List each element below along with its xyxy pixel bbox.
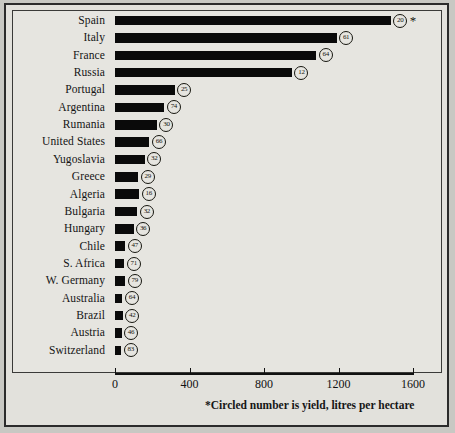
bar <box>115 311 123 321</box>
x-axis-tick <box>264 368 265 373</box>
yield-circle-badge: 61 <box>339 31 353 45</box>
yield-circle-badge: 83 <box>124 343 138 357</box>
category-label: Austria <box>0 324 105 341</box>
asterisk-marker: * <box>410 13 417 29</box>
bar <box>115 137 149 147</box>
yield-circle-badge: 66 <box>152 135 166 149</box>
bar <box>115 51 316 61</box>
bar-row: W. Germany79 <box>0 272 455 289</box>
bar-row: Bulgaria32 <box>0 203 455 220</box>
bar-row: Yugoslavia32 <box>0 151 455 168</box>
category-label: Hungary <box>0 220 105 237</box>
category-label: Greece <box>0 168 105 185</box>
bar <box>115 33 337 43</box>
x-axis-tick-label: 1200 <box>318 377 360 392</box>
yield-circle-badge: 32 <box>140 205 154 219</box>
category-label: Algeria <box>0 186 105 203</box>
plot-area: Spain20Italy61France64Russia12Portugal25… <box>0 0 455 433</box>
bar <box>115 103 164 113</box>
yield-circle-badge: 64 <box>319 48 333 62</box>
category-label: France <box>0 47 105 64</box>
bar <box>115 241 125 251</box>
bar <box>115 68 292 78</box>
x-axis-tick <box>115 368 116 373</box>
bar <box>115 276 125 286</box>
chart-footnote: *Circled number is yield, litres per hec… <box>205 399 414 411</box>
yield-circle-badge: 30 <box>159 118 173 132</box>
category-label: W. Germany <box>0 272 105 289</box>
category-label: Rumania <box>0 116 105 133</box>
category-label: S. Africa <box>0 255 105 272</box>
x-axis-tick <box>413 368 414 373</box>
bar-row: Switzerland83 <box>0 342 455 359</box>
category-label: Argentina <box>0 99 105 116</box>
x-axis-tick <box>339 368 340 373</box>
bar-row: Russia12 <box>0 64 455 81</box>
bar <box>115 172 138 182</box>
yield-circle-badge: 64 <box>125 291 139 305</box>
x-axis-tick-label: 0 <box>94 377 136 392</box>
bar <box>115 85 175 95</box>
category-label: Spain <box>0 12 105 29</box>
category-label: Switzerland <box>0 342 105 359</box>
x-axis-tick <box>190 368 191 373</box>
chart-figure: Spain20Italy61France64Russia12Portugal25… <box>0 0 455 433</box>
yield-circle-badge: 32 <box>147 152 161 166</box>
bar <box>115 16 391 26</box>
yield-circle-badge: 71 <box>127 257 141 271</box>
category-label: Yugoslavia <box>0 151 105 168</box>
bar <box>115 155 145 165</box>
yield-circle-badge: 47 <box>128 239 142 253</box>
category-label: Portugal <box>0 81 105 98</box>
bar-row: Australia64 <box>0 290 455 307</box>
bar-row: France64 <box>0 47 455 64</box>
yield-circle-badge: 42 <box>125 309 139 323</box>
bar <box>115 224 134 234</box>
yield-circle-badge: 79 <box>128 274 142 288</box>
bar-row: Spain20 <box>0 12 455 29</box>
bar-row: Portugal25 <box>0 81 455 98</box>
category-label: Russia <box>0 64 105 81</box>
bar-row: Italy61 <box>0 29 455 46</box>
bar-row: Algeria16 <box>0 186 455 203</box>
bar <box>115 328 122 338</box>
bar <box>115 120 157 130</box>
bar-row: Argentina74 <box>0 99 455 116</box>
x-axis-tick-label: 800 <box>243 377 285 392</box>
bar-row: Chile47 <box>0 238 455 255</box>
bar-row: S. Africa71 <box>0 255 455 272</box>
bar-row: Austria46 <box>0 324 455 341</box>
x-axis-line <box>115 373 414 375</box>
yield-circle-badge: 46 <box>124 326 138 340</box>
yield-circle-badge: 12 <box>294 66 308 80</box>
x-axis-tick-label: 1600 <box>392 377 434 392</box>
category-label: Brazil <box>0 307 105 324</box>
bar <box>115 346 121 356</box>
category-label: Chile <box>0 238 105 255</box>
bar-row: Hungary36 <box>0 220 455 237</box>
yield-circle-badge: 16 <box>142 187 156 201</box>
bar-row: United States66 <box>0 133 455 150</box>
category-label: Australia <box>0 290 105 307</box>
yield-circle-badge: 29 <box>141 170 155 184</box>
bar-row: Brazil42 <box>0 307 455 324</box>
yield-circle-badge: 74 <box>167 100 181 114</box>
yield-circle-badge: 25 <box>177 83 191 97</box>
yield-circle-badge: 20 <box>393 14 407 28</box>
bar <box>115 259 124 269</box>
yield-circle-badge: 36 <box>136 222 150 236</box>
bar <box>115 294 122 304</box>
category-label: Bulgaria <box>0 203 105 220</box>
bar-row: Rumania30 <box>0 116 455 133</box>
category-label: United States <box>0 133 105 150</box>
bar <box>115 207 137 217</box>
bar <box>115 189 139 199</box>
bar-row: Greece29 <box>0 168 455 185</box>
x-axis-tick-label: 400 <box>169 377 211 392</box>
category-label: Italy <box>0 29 105 46</box>
